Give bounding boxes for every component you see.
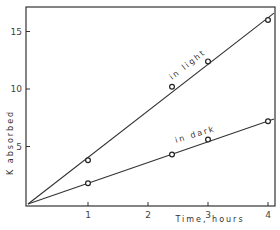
x-axis-label: Time, hours [174,215,244,224]
y-axis-label: K absorbed [6,110,15,175]
svg-text:15: 15 [11,27,22,37]
svg-text:10: 10 [11,84,23,94]
svg-text:4: 4 [265,210,271,220]
series-label-dark: in dark [174,124,217,145]
series-lines [28,13,274,204]
svg-text:5: 5 [16,142,22,152]
chart: 51015 1234 in light in dark Time, hours … [0,0,280,230]
svg-text:1: 1 [85,210,91,220]
svg-text:2: 2 [145,210,151,220]
data-points [86,18,271,186]
series-label-light: in light [168,48,208,82]
